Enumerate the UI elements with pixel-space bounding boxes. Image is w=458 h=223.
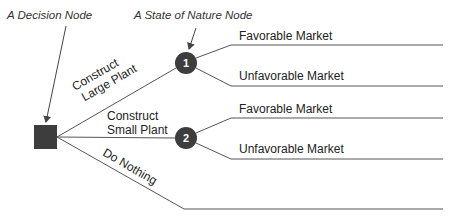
label-large-plant: Construct Large Plant [70,49,140,106]
state-node-2-number: 2 [183,132,189,144]
decision-node-annotation: A Decision Node [6,9,92,21]
decision-tree-diagram: A Decision Node A State of Nature Node 1… [0,0,458,223]
state-node-annotation: A State of Nature Node [133,9,252,21]
state-node-2: 2 [175,127,197,149]
state-node-1-number: 1 [183,57,189,69]
edge-small-plant [57,137,175,138]
decision-node-pointer-arrow [46,26,66,122]
state-node-pointer-arrow [189,28,196,49]
edge-node1-favorable [196,45,443,58]
outcome-node2-favorable: Favorable Market [239,102,333,116]
label-small-plant-line2: Small Plant [107,123,168,137]
outcome-node1-favorable: Favorable Market [239,29,333,43]
decision-node-square [34,125,57,149]
label-small-plant-line1: Construct [107,109,159,123]
edge-node2-favorable [196,118,443,133]
outcome-node2-unfavorable: Unfavorable Market [239,142,344,156]
outcome-node1-unfavorable: Unfavorable Market [239,69,344,83]
state-node-1: 1 [175,52,197,74]
